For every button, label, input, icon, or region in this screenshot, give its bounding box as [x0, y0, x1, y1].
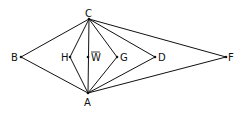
point-W — [87, 56, 90, 59]
edge-F-A — [88, 57, 226, 93]
point-G — [116, 56, 119, 59]
point-A — [87, 92, 90, 95]
label-B: B — [11, 52, 18, 63]
edge-C-B — [21, 19, 89, 57]
point-D — [154, 56, 157, 59]
label-F: F — [228, 52, 234, 63]
edge-B-A — [21, 57, 88, 93]
point-B — [20, 56, 23, 59]
label-D: D — [158, 52, 166, 63]
label-A: A — [84, 97, 91, 108]
label-H: H — [61, 52, 69, 63]
label-W: W — [91, 52, 101, 63]
point-F — [225, 56, 228, 59]
diagram-canvas: CABHWGDF — [0, 0, 249, 116]
point-H — [69, 56, 72, 59]
label-G: G — [120, 52, 128, 63]
label-C: C — [85, 8, 92, 19]
graph-svg: CABHWGDF — [0, 0, 249, 116]
